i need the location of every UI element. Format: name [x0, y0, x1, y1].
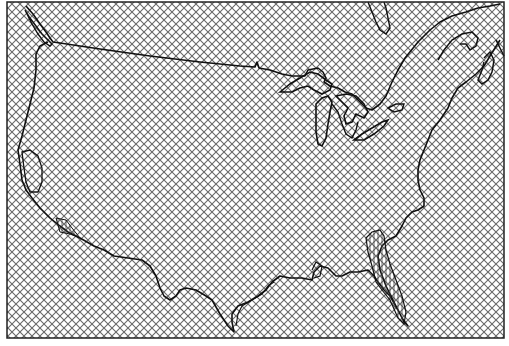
hatch-background: [7, 2, 504, 338]
map-container: [0, 0, 509, 346]
us-map: [0, 0, 509, 346]
